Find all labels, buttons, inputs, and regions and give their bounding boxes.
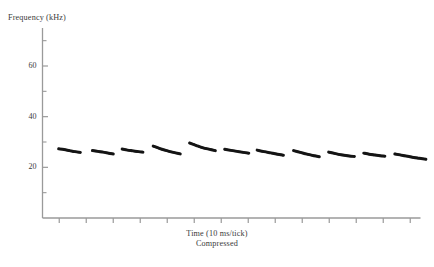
y-tick-label: 60 [17,61,37,70]
pulse-trace [294,151,320,157]
y-tick-label: 40 [17,112,37,121]
y-axis-title: Frequency (kHz) [8,13,66,23]
pulse-trace [395,154,426,159]
pulse-trace [257,150,283,155]
chart-figure: Frequency (kHz) Time (10 ms/tick) Compre… [0,0,434,267]
x-axis-title: Time (10 ms/tick) Compressed [0,229,434,249]
x-axis-title-subtitle: Compressed [0,239,434,249]
x-axis-ticks [59,218,410,223]
x-axis-title-line1: Time (10 ms/tick) [0,229,434,239]
pulse-trace [153,146,180,154]
data-series-group [59,143,426,159]
chart-plot-area [0,0,434,267]
y-tick-label: 20 [17,162,37,171]
y-axis-ticks [43,41,49,193]
axis-lines [43,28,421,218]
